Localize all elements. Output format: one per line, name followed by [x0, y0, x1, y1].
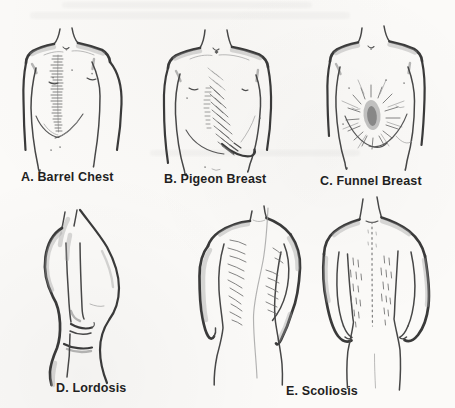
figure-barrel-chest: [14, 26, 136, 172]
straight-spine-dotted-line: [368, 222, 376, 326]
figure-lordosis: [40, 205, 152, 385]
torso-outline: [347, 251, 401, 390]
hip-buttock: [64, 334, 92, 377]
label-pigeon-breast: B. Pigeon Breast: [164, 172, 266, 186]
costal-margin-keel: [186, 116, 255, 156]
back-contour: [45, 228, 62, 385]
scoliosis-akimbo-illustration: [320, 194, 438, 390]
pigeon-breast-illustration: [156, 28, 286, 174]
neck: [360, 197, 382, 223]
neck: [200, 30, 232, 54]
right-shoulder-arm: [267, 218, 301, 344]
neck: [54, 28, 78, 50]
nipples: [49, 74, 96, 84]
neck: [358, 26, 390, 49]
label-barrel-chest: A. Barrel Chest: [21, 170, 114, 184]
figure-funnel-breast: [320, 24, 436, 174]
left-shoulder-arm: [200, 221, 251, 339]
label-funnel-breast: C. Funnel Breast: [320, 174, 422, 188]
figure-pigeon-breast: [156, 28, 286, 174]
scanned-diagram-page: A. Barrel Chest B. Pigeon Breast C. Funn…: [0, 0, 455, 408]
torso-outline: [175, 74, 260, 175]
label-lordosis: D. Lordosis: [56, 381, 126, 395]
funnel-depression: [342, 80, 404, 149]
label-scoliosis: E. Scoliosis: [286, 384, 358, 398]
sternum-ridge-hatching: [204, 68, 235, 155]
torso-outline: [214, 244, 282, 385]
figure-scoliosis-akimbo-back: [320, 194, 438, 390]
lordosis-illustration: [40, 205, 152, 385]
shoulders: [26, 43, 110, 63]
arms: [23, 59, 121, 150]
bleed-through-artifact: [62, 2, 312, 8]
shoulders: [330, 42, 422, 62]
funnel-breast-illustration: [320, 24, 436, 174]
right-shoulder-arm: [382, 218, 429, 342]
barrel-chest-illustration: [14, 26, 136, 172]
costal-margin: [36, 114, 83, 138]
curved-spine-line: [254, 208, 269, 378]
neck: [250, 206, 268, 222]
sternum-hatching: [50, 55, 63, 132]
forearm-hand: [70, 323, 94, 335]
scapular-hatching: [351, 256, 392, 327]
front-contour: [80, 210, 119, 383]
figure-scoliosis-curved-back: [186, 202, 314, 386]
torso-outline: [31, 62, 100, 172]
arm: [66, 235, 84, 322]
bleed-through-artifact: [30, 12, 350, 19]
scoliosis-back-illustration: [186, 202, 314, 386]
nipples: [189, 88, 248, 91]
